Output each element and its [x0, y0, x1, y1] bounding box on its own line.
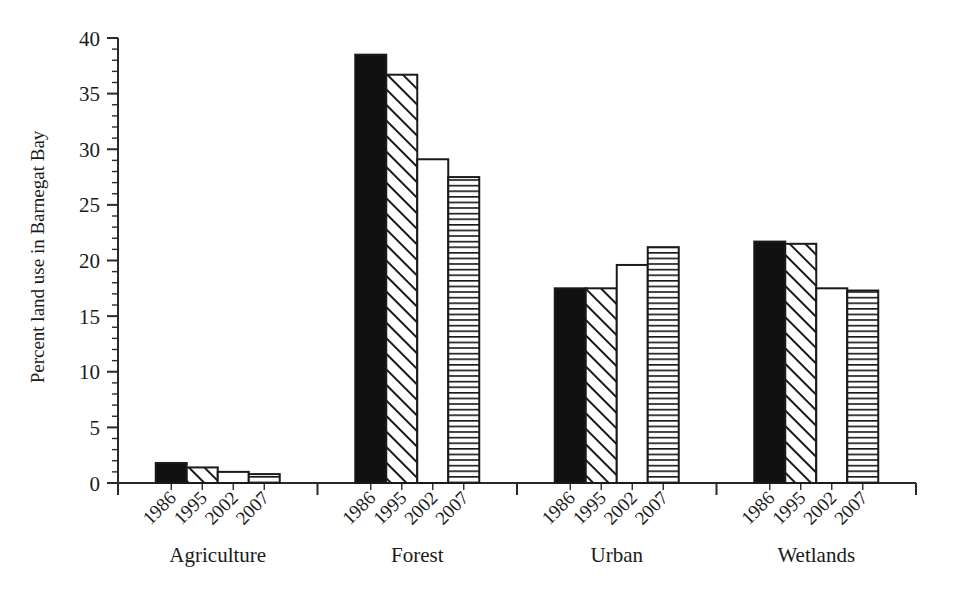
bar[interactable] — [417, 159, 448, 483]
bar[interactable] — [847, 291, 878, 483]
group-labels-layer: AgricultureForestUrbanWetlands — [169, 543, 855, 567]
bar[interactable] — [555, 288, 586, 483]
y-tick-label: 10 — [79, 360, 100, 384]
x-year-tick-label: 2002 — [200, 487, 242, 529]
bar[interactable] — [586, 288, 617, 483]
y-tick-label: 30 — [79, 138, 100, 162]
y-tick-label: 5 — [90, 416, 101, 440]
y-axis-ticks — [107, 38, 118, 483]
y-tick-label: 25 — [79, 193, 100, 217]
x-year-tick-label: 2007 — [231, 487, 273, 529]
x-year-tick-label: 1986 — [737, 487, 779, 529]
x-year-tick-label: 1995 — [568, 487, 610, 529]
bar[interactable] — [617, 265, 648, 483]
bar[interactable] — [448, 177, 479, 483]
x-year-tick-label: 1995 — [768, 487, 810, 529]
x-year-tick-label: 1986 — [537, 487, 579, 529]
bar[interactable] — [249, 474, 280, 483]
bar[interactable] — [816, 288, 847, 483]
bar[interactable] — [648, 247, 679, 483]
x-year-tick-label: 1986 — [138, 487, 180, 529]
y-axis: 0510152025303540 — [79, 27, 118, 496]
bar[interactable] — [785, 244, 816, 483]
y-tick-label: 0 — [90, 472, 101, 496]
x-year-tick-label: 2002 — [599, 487, 641, 529]
x-group-label: Forest — [391, 543, 444, 567]
x-year-tick-label: 1995 — [169, 487, 211, 529]
y-tick-label: 15 — [79, 305, 100, 329]
x-group-label: Wetlands — [777, 543, 855, 567]
x-year-tick-label: 2007 — [630, 487, 672, 529]
bar[interactable] — [386, 75, 417, 483]
y-axis-title-text: Percent land use in Barnegat Bay — [27, 130, 48, 383]
figure-container: 0510152025303540 Percent land use in Bar… — [0, 0, 974, 603]
bar[interactable] — [355, 55, 386, 483]
x-year-tick-label: 2002 — [400, 487, 442, 529]
x-year-tick-label: 2007 — [431, 487, 473, 529]
bar[interactable] — [754, 242, 785, 483]
bar-chart: 0510152025303540 Percent land use in Bar… — [0, 0, 974, 603]
bar[interactable] — [218, 472, 249, 483]
bar[interactable] — [156, 463, 187, 483]
x-group-label: Urban — [591, 543, 644, 567]
x-year-tick-label: 2007 — [830, 487, 872, 529]
year-tick-labels-layer: 1986199520022007198619952002200719861995… — [138, 487, 871, 529]
x-year-tick-label: 1986 — [338, 487, 380, 529]
y-axis-title: Percent land use in Barnegat Bay — [27, 130, 48, 383]
x-year-tick-label: 2002 — [799, 487, 841, 529]
y-tick-label: 20 — [79, 249, 100, 273]
y-tick-label: 35 — [79, 82, 100, 106]
x-group-label: Agriculture — [169, 543, 266, 567]
bar[interactable] — [187, 467, 218, 483]
y-axis-tick-labels: 0510152025303540 — [79, 27, 100, 496]
y-tick-label: 40 — [79, 27, 100, 51]
x-year-tick-label: 1995 — [369, 487, 411, 529]
